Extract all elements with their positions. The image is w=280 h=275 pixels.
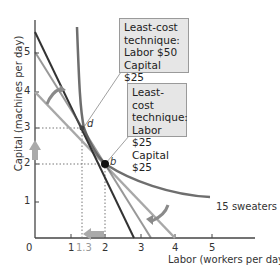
shift-arrow-icon — [47, 89, 60, 104]
guide-lines — [35, 128, 105, 238]
x-tick-4: 4 — [172, 242, 178, 253]
y-axis-label: Capital (machines per day) — [13, 34, 24, 174]
x-tick-1-3: 1.3 — [76, 242, 92, 253]
box-line: Least-cost — [132, 86, 182, 111]
box-line: technique: — [124, 34, 184, 47]
rotate-arrow-icon — [152, 205, 168, 221]
y-tick-3: 3 — [24, 121, 30, 132]
chart: d b 5 4 3 2 1 0 1 1.3 2 3 4 5 Labor (wor… — [0, 0, 280, 275]
x-axis-label: Labor (workers per day) — [168, 254, 280, 265]
arrowhead-icon — [59, 85, 66, 93]
box-line: Capital $25 — [132, 149, 182, 174]
x-tick-2: 2 — [102, 242, 108, 253]
box-line: technique: — [132, 111, 182, 124]
y-tick-1: 1 — [24, 195, 30, 206]
box-line: Labor $50 — [124, 46, 184, 59]
box-line: Capital $25 — [124, 59, 184, 84]
x-tick-5: 5 — [209, 242, 215, 253]
isoquant-label: 15 sweaters — [216, 201, 277, 212]
box-line: Least-cost — [124, 21, 184, 34]
arrowhead-icon — [29, 140, 41, 150]
y-tick-5: 5 — [24, 46, 30, 57]
point-d — [80, 126, 85, 131]
y-tick-2: 2 — [24, 157, 30, 168]
annotation-box-labor-50: Least-cost technique: Labor $50 Capital … — [119, 18, 189, 73]
x-tick-1: 1 — [68, 242, 74, 253]
box-line: Labor $25 — [132, 124, 182, 149]
point-b-label: b — [110, 156, 116, 167]
labor-left-arrow-icon — [90, 231, 104, 237]
point-d-label: d — [87, 118, 93, 129]
y-tick-4: 4 — [24, 85, 30, 96]
x-tick-3: 3 — [138, 242, 144, 253]
annotation-box-labor-25: Least-cost technique: Labor $25 Capital … — [127, 83, 187, 137]
point-b — [101, 160, 109, 168]
arrowhead-icon — [146, 215, 153, 225]
x-tick-0: 0 — [26, 242, 32, 253]
